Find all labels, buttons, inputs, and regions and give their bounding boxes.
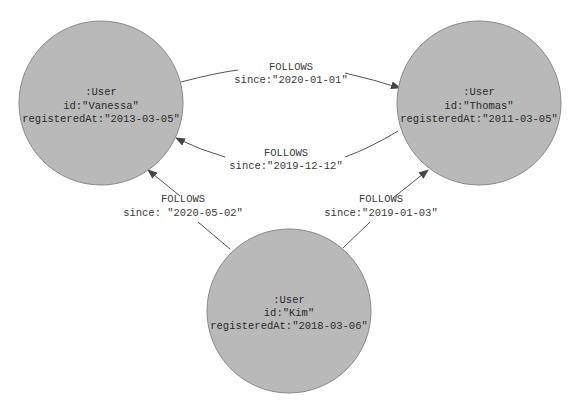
- node-id: id:"Thomas": [444, 100, 513, 112]
- edge-label-vanessa-thomas: FOLLOWS since:"2020-01-01": [234, 61, 347, 86]
- edge-label-kim-vanessa: FOLLOWS since: "2020-05-02": [123, 193, 243, 219]
- node-registered: registeredAt:"2018-03-06": [210, 320, 368, 332]
- relationship-since: since: "2020-05-02": [123, 207, 243, 219]
- node-id: id:"Vanessa": [63, 100, 139, 112]
- graph-diagram: :User id:"Vanessa" registeredAt:"2013-03…: [0, 0, 580, 410]
- node-type-label: :User: [463, 86, 495, 98]
- relationship-type: FOLLOWS: [161, 193, 205, 205]
- relationship-since: since:"2019-01-03": [324, 207, 437, 219]
- relationship-since: since:"2019-12-12": [229, 160, 342, 172]
- relationship-type: FOLLOWS: [264, 147, 308, 159]
- node-id: id:"Kim": [264, 307, 314, 319]
- edge-label-thomas-vanessa: FOLLOWS since:"2019-12-12": [229, 147, 342, 172]
- relationship-type: FOLLOWS: [359, 193, 403, 205]
- node-vanessa[interactable]: :User id:"Vanessa" registeredAt:"2013-03…: [19, 21, 183, 185]
- node-type-label: :User: [85, 86, 117, 98]
- node-registered: registeredAt:"2013-03-05": [22, 113, 180, 125]
- relationship-since: since:"2020-01-01": [234, 74, 347, 86]
- node-registered: registeredAt:"2011-03-05": [400, 113, 558, 125]
- node-thomas[interactable]: :User id:"Thomas" registeredAt:"2011-03-…: [397, 21, 561, 185]
- edge-label-kim-thomas: FOLLOWS since:"2019-01-03": [324, 193, 437, 219]
- relationship-type: FOLLOWS: [269, 61, 313, 73]
- node-type-label: :User: [273, 294, 305, 306]
- node-kim[interactable]: :User id:"Kim" registeredAt:"2018-03-06": [207, 229, 371, 393]
